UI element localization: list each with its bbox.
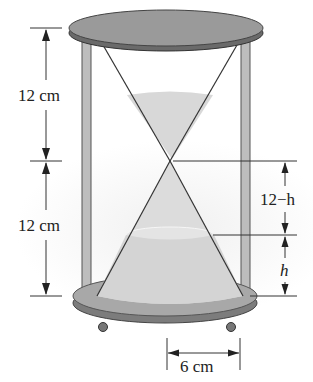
base-foot-right <box>227 323 236 332</box>
arrow-right-icon <box>228 350 239 357</box>
label-upper-gap: 12−h <box>260 190 296 209</box>
arrow-down-icon <box>42 148 50 160</box>
label-radius: 6 cm <box>180 357 214 376</box>
label-top-height: 12 cm <box>18 86 60 105</box>
top-cap <box>69 10 263 46</box>
left-post <box>82 38 91 300</box>
hourglass-diagram: 12 cm 12 cm 12−h h 6 cm <box>0 0 313 382</box>
right-post <box>241 38 250 300</box>
base-foot-left <box>99 323 108 332</box>
arrow-up-icon <box>42 162 50 174</box>
label-upper-gap-text: 12−h <box>260 190 296 209</box>
arrow-up-icon <box>42 29 50 41</box>
label-sand-height: h <box>280 261 289 280</box>
arrow-left-icon <box>168 350 179 357</box>
label-bottom-height: 12 cm <box>18 216 60 235</box>
arrow-down-icon <box>42 283 50 295</box>
